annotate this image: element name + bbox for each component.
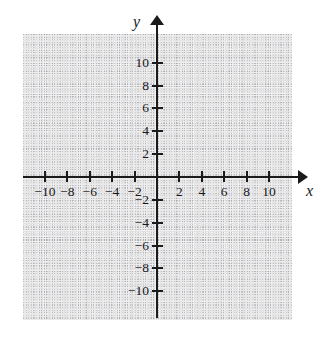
x-axis-tick-label: 10 xyxy=(262,185,276,199)
y-axis-tick-label: −8 xyxy=(135,262,149,276)
x-axis-tick xyxy=(134,171,136,182)
y-axis-tick-label: −10 xyxy=(128,284,149,298)
x-axis-line xyxy=(23,176,301,178)
y-axis-tick-label: 6 xyxy=(142,102,149,116)
y-axis-tick-label: 4 xyxy=(142,125,149,139)
x-axis-tick xyxy=(66,171,68,182)
y-axis-tick xyxy=(152,62,163,64)
x-axis-tick xyxy=(246,171,248,182)
y-axis-arrow-icon xyxy=(150,15,164,25)
y-axis-tick xyxy=(152,290,163,292)
y-axis-tick-label: 2 xyxy=(142,147,149,161)
x-axis-tick xyxy=(201,171,203,182)
y-axis-label: y xyxy=(133,14,140,30)
y-axis-tick xyxy=(152,85,163,87)
x-axis-tick-label: 4 xyxy=(198,185,205,199)
x-axis-tick xyxy=(111,171,113,182)
x-axis-label: x xyxy=(306,183,313,199)
x-axis-tick xyxy=(223,171,225,182)
x-axis-tick-label: −4 xyxy=(105,185,119,199)
x-axis-tick xyxy=(178,171,180,182)
y-axis-tick-label: 10 xyxy=(136,56,150,70)
x-axis-tick-label: 2 xyxy=(176,185,183,199)
x-axis-tick xyxy=(44,171,46,182)
y-axis-tick xyxy=(152,130,163,132)
y-axis-tick-label: −4 xyxy=(135,216,149,230)
y-axis-tick-label: −2 xyxy=(135,193,149,207)
x-axis-tick xyxy=(89,171,91,182)
y-axis-tick xyxy=(152,199,163,201)
y-axis-tick-label: 8 xyxy=(142,79,149,93)
x-axis-tick-label: 6 xyxy=(221,185,228,199)
y-axis-tick xyxy=(152,107,163,109)
y-axis-tick xyxy=(152,267,163,269)
x-axis-tick-label: −10 xyxy=(34,185,55,199)
y-axis-line xyxy=(156,22,158,318)
x-axis-tick-label: −6 xyxy=(83,185,97,199)
coordinate-plane-graph: −10−8−6−4−2246810 108642−2−4−6−8−10 x y xyxy=(0,0,322,340)
y-axis-tick xyxy=(152,245,163,247)
y-axis-tick xyxy=(152,222,163,224)
y-axis-tick-label: −6 xyxy=(135,239,149,253)
x-axis-tick xyxy=(268,171,270,182)
x-axis-tick-label: −8 xyxy=(60,185,74,199)
y-axis-tick xyxy=(152,153,163,155)
x-axis-tick-label: 8 xyxy=(243,185,250,199)
